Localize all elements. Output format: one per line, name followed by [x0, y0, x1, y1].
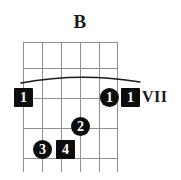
- string-line-1: [23, 42, 24, 172]
- finger-marker-1-string5[interactable]: 1: [100, 88, 119, 107]
- finger-marker-3-string2[interactable]: 3: [33, 140, 52, 159]
- fret-line-1: [23, 68, 118, 69]
- chord-diagram-card: B 1 1 1 2 3 4 VII: [0, 0, 181, 180]
- string-line-5: [99, 42, 100, 172]
- finger-marker-1-string6[interactable]: 1: [121, 88, 140, 107]
- string-line-4: [80, 42, 81, 172]
- string-line-6: [117, 42, 118, 172]
- finger-marker-4-string3[interactable]: 4: [56, 140, 75, 159]
- chord-name-title: B: [0, 11, 160, 33]
- fret-position-label: VII: [142, 88, 168, 106]
- finger-marker-2-string4[interactable]: 2: [71, 117, 90, 136]
- finger-marker-1-string1[interactable]: 1: [14, 88, 33, 107]
- fret-line-0: [23, 42, 118, 43]
